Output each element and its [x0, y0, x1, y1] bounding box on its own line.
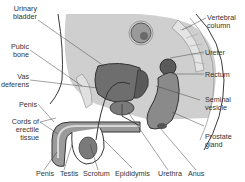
label-penis-bottom: Penis [36, 170, 54, 178]
label-scrotum: Scrotum [83, 170, 110, 178]
label-urinary-bladder: Urinary bladder [0, 5, 37, 21]
label-urethra: Urethra [158, 170, 182, 178]
label-ureter: Ureter [205, 49, 225, 57]
anatomy-diagram: Urinary bladder Pubic bone Vas deferens … [0, 0, 245, 182]
front-outline [50, 14, 63, 104]
label-epididymis: Epididymis [115, 170, 150, 178]
label-prostate-gland: Prostate gland [205, 133, 232, 149]
anus [157, 123, 167, 129]
label-pubic-bone: Pubic bone [0, 43, 29, 59]
label-penis-left: Penis [0, 101, 37, 109]
label-anus: Anus [188, 170, 204, 178]
testis [79, 137, 97, 159]
label-seminal-vesicle: Seminal vesicle [205, 96, 231, 112]
intestine [131, 23, 151, 43]
label-vas-deferens: Vas deferens [0, 73, 29, 89]
label-testis: Testis [60, 170, 78, 178]
label-rectum: Rectum [205, 71, 230, 79]
label-cords-erectile-tissue: Cords of erectile tissue [0, 118, 39, 142]
label-vertebral-column: Vertebral column [207, 14, 236, 30]
